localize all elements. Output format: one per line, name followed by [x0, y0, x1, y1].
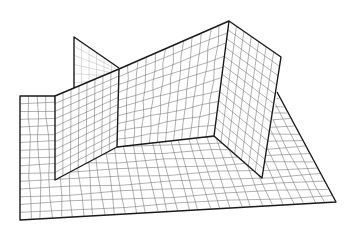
- back-wall: [117, 21, 229, 147]
- mesh-figure: [0, 0, 353, 236]
- mesh-diagram: [0, 0, 353, 236]
